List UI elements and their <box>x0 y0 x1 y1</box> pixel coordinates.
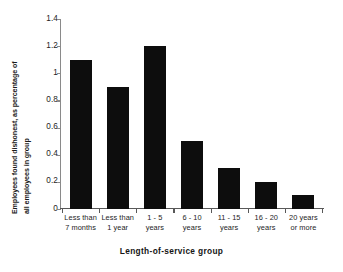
x-axis-category-label: 20 yearsor more <box>283 213 324 232</box>
x-axis-category-label-line: 16 - 20 <box>246 213 287 223</box>
x-axis-category-label: Less than7 months <box>60 213 101 232</box>
bar <box>107 87 129 209</box>
bar <box>218 168 240 209</box>
x-axis-category-label-line: 1 year <box>97 223 138 233</box>
x-axis-category-label-line: Less than <box>60 213 101 223</box>
x-axis-category-label-line: Less than <box>97 213 138 223</box>
x-axis-category-label-line: years <box>134 223 175 233</box>
x-axis-category-label-line: 20 years <box>283 213 324 223</box>
x-axis-category-label-line: 11 - 15 <box>209 213 250 223</box>
y-axis-title-line-1: Employees found dishonest, as percentage… <box>12 61 19 214</box>
x-axis-category-labels: Less than7 monthsLess than1 year1 - 5yea… <box>60 213 324 241</box>
x-axis-category-label-line: 1 - 5 <box>134 213 175 223</box>
x-axis-category-label-line: 7 months <box>60 223 101 233</box>
x-axis-category-label: 1 - 5years <box>134 213 175 232</box>
x-axis-category-label: Less than1 year <box>97 213 138 232</box>
x-axis-category-label-line: or more <box>283 223 324 233</box>
x-axis-category-label: 11 - 15years <box>209 213 250 232</box>
bar <box>70 60 92 209</box>
x-axis-category-label-line: years <box>209 223 250 233</box>
y-axis-tick <box>57 209 61 210</box>
bar <box>292 195 314 209</box>
x-axis-category-label: 6 - 10years <box>171 213 212 232</box>
x-axis-category-label-line: years <box>171 223 212 233</box>
bar <box>181 141 203 209</box>
bar <box>144 46 166 209</box>
y-axis-tick-labels: 00.20.40.60.811.21.4 <box>34 0 58 272</box>
bar-series <box>60 19 320 209</box>
x-axis-category-label: 16 - 20years <box>246 213 287 232</box>
y-axis-title-line-2: all employees in group <box>24 138 31 214</box>
bar-chart: Employees found dishonest, as percentage… <box>0 0 343 272</box>
x-axis-title: Length-of-service group <box>0 246 343 256</box>
plot-area <box>60 19 320 209</box>
x-axis-category-label-line: 6 - 10 <box>171 213 212 223</box>
bar <box>255 182 277 209</box>
x-axis-category-label-line: years <box>246 223 287 233</box>
